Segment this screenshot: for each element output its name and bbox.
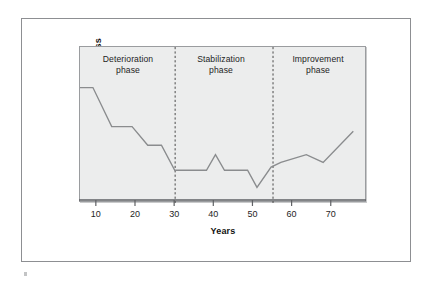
x-axis-tick-marks bbox=[96, 200, 331, 206]
course-of-illness-line bbox=[80, 88, 353, 188]
x-axis-tick-label: 20 bbox=[123, 209, 147, 219]
x-axis-tick-label: 50 bbox=[240, 209, 264, 219]
x-axis-tick-label: 40 bbox=[201, 209, 225, 219]
scan-artifact-speck bbox=[24, 272, 27, 276]
phase-label-improvement: Improvement phase bbox=[272, 54, 364, 75]
chart-figure: Course of illness Deterioration phase St… bbox=[0, 0, 436, 284]
phase-label-stabilization: Stabilization phase bbox=[176, 54, 266, 75]
x-axis-tick-label: 70 bbox=[319, 209, 343, 219]
phase-label-deterioration: Deterioration phase bbox=[83, 54, 173, 75]
x-axis-tick-label: 10 bbox=[84, 209, 108, 219]
x-axis-tick-label: 30 bbox=[162, 209, 186, 219]
x-axis-title: Years bbox=[175, 226, 271, 236]
x-axis-tick-label: 60 bbox=[280, 209, 304, 219]
